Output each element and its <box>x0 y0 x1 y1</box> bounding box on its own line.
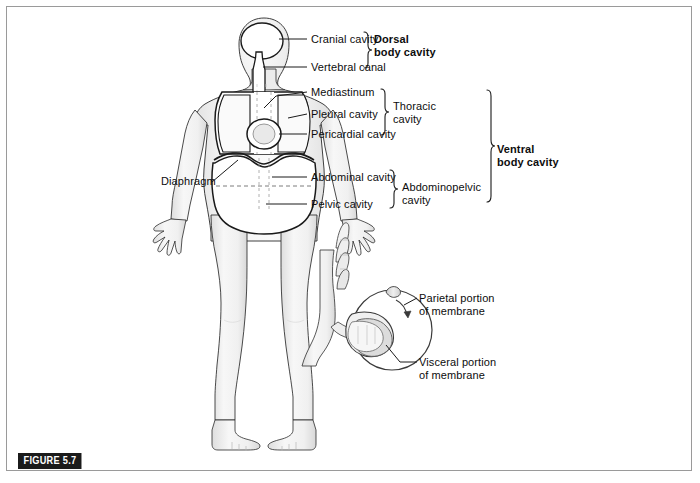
brace-ventral <box>487 90 495 202</box>
left-hand <box>153 219 186 255</box>
right-leg <box>281 215 317 420</box>
label-thoracic-cavity: Thoracic cavity <box>393 100 436 126</box>
label-ventral-body-cavity: Ventral body cavity <box>497 143 559 169</box>
left-leg <box>211 215 247 420</box>
label-pleural-cavity: Pleural cavity <box>311 108 378 121</box>
right-foot <box>268 420 316 450</box>
label-pericardial-cavity: Pericardial cavity <box>311 128 396 141</box>
left-pleural-cavity <box>218 95 250 152</box>
label-diaphragm: Diaphragm <box>161 175 216 188</box>
right-pleural-cavity <box>278 95 310 152</box>
label-dorsal-body-cavity: Dorsal body cavity <box>374 33 436 59</box>
left-foot <box>212 420 260 450</box>
label-vertebral-canal: Vertebral canal <box>311 61 386 74</box>
left-arm <box>171 110 207 221</box>
label-parietal-portion: Parietal portion of membrane <box>419 292 495 318</box>
body-cavities <box>212 23 316 234</box>
label-abdominopelvic-cavity: Abdominopelvic cavity <box>402 181 481 207</box>
label-abdominal-cavity: Abdominal cavity <box>311 171 396 184</box>
pericardium-inner <box>253 124 275 144</box>
label-visceral-portion: Visceral portion of membrane <box>419 356 496 382</box>
abdominopelvic-cavity-outline <box>212 156 316 234</box>
label-pelvic-cavity: Pelvic cavity <box>311 198 373 211</box>
figure-number-tag: FIGURE 5.7 <box>18 453 82 469</box>
label-cranial-cavity: Cranial cavity <box>311 33 378 46</box>
label-mediastinum: Mediastinum <box>311 86 374 99</box>
